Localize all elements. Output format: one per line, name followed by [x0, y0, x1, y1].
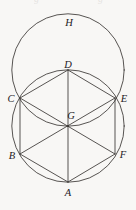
- label-E: E: [121, 94, 127, 105]
- segment-DE: [68, 70, 115, 98]
- diagram-canvas: [0, 0, 136, 210]
- vertex-point-G: [67, 125, 69, 127]
- label-C: C: [7, 94, 14, 105]
- segment-AB: [20, 154, 68, 182]
- segment-CD: [20, 70, 68, 98]
- label-A: A: [65, 188, 71, 199]
- label-H: H: [65, 18, 73, 29]
- label-G: G: [67, 111, 75, 122]
- geometry-figure: g g H D C E G B F A: [0, 0, 136, 210]
- label-B: B: [9, 151, 15, 162]
- segment-FA: [68, 154, 115, 182]
- label-D: D: [64, 60, 72, 71]
- label-F: F: [120, 150, 126, 161]
